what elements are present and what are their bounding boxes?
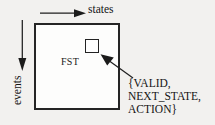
- fst-table-diagram: FST states events {VALID, NEXT_STATE, AC…: [0, 0, 215, 125]
- callout-text-block: {VALID, NEXT_STATE, ACTION}: [128, 77, 201, 117]
- states-axis-label: states: [88, 2, 114, 16]
- fst-box-label: FST: [61, 56, 79, 68]
- events-axis-label: events: [10, 61, 24, 105]
- callout-line-2: NEXT_STATE,: [128, 90, 201, 103]
- highlighted-entry-square: [85, 39, 99, 53]
- callout-line-3: ACTION}: [128, 103, 201, 116]
- callout-line-1: {VALID,: [128, 77, 201, 90]
- arrow-right-icon: [40, 9, 86, 17]
